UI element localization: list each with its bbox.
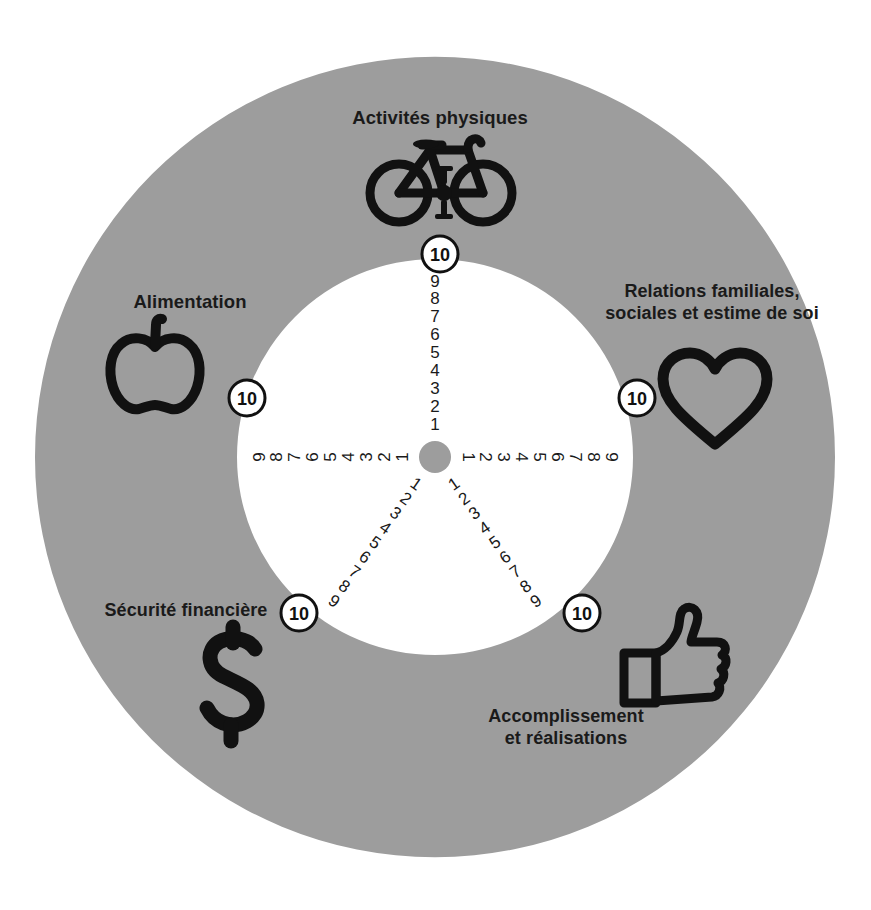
scale-tick-alimentation-2: 2 — [375, 452, 394, 461]
spoke-label-securite-financiere: Sécurité financière — [66, 600, 306, 622]
scale-tick-activites-physiques-2: 2 — [430, 397, 439, 416]
scale-tick-activites-physiques-9: 9 — [430, 272, 439, 291]
wheel-of-life-diagram: 1234567891234567891234567891234567891234… — [0, 0, 871, 910]
scale-tick-accomplissement-9: 9 — [527, 591, 546, 612]
scale-tick-activites-physiques-7: 7 — [430, 307, 439, 326]
scale-tick-relations-familiales-7: 7 — [566, 452, 585, 461]
spoke-label-activites-physiques: Activités physiques — [240, 107, 640, 130]
scale-tick-activites-physiques-1: 1 — [430, 415, 439, 434]
spoke-label-accomplissement: Accomplissement et réalisations — [446, 706, 686, 750]
scale-tick-securite-financiere-9: 9 — [325, 591, 344, 612]
scale-tick-relations-familiales-5: 5 — [530, 452, 549, 461]
scale-tick-activites-physiques-5: 5 — [430, 343, 439, 362]
scale-tick-relations-familiales-6: 6 — [548, 452, 567, 461]
scale-badge-label-activites-physiques: 10 — [430, 245, 450, 265]
scale-tick-relations-familiales-4: 4 — [512, 452, 531, 461]
spoke-label-relations-familiales: Relations familiales, sociales et estime… — [592, 281, 832, 325]
spoke-label-alimentation: Alimentation — [90, 291, 290, 314]
scale-tick-alimentation-3: 3 — [357, 452, 376, 461]
scale-tick-activites-physiques-3: 3 — [430, 379, 439, 398]
scale-tick-activites-physiques-8: 8 — [430, 289, 439, 308]
scale-badge-label-relations-familiales: 10 — [627, 389, 647, 409]
scale-tick-relations-familiales-8: 8 — [584, 452, 603, 461]
scale-tick-relations-familiales-3: 3 — [494, 452, 513, 461]
scale-badge-label-alimentation: 10 — [237, 389, 257, 409]
scale-tick-alimentation-4: 4 — [339, 452, 358, 461]
scale-tick-alimentation-5: 5 — [321, 452, 340, 461]
scale-tick-alimentation-6: 6 — [303, 452, 322, 461]
scale-tick-alimentation-8: 8 — [267, 452, 286, 461]
scale-tick-activites-physiques-4: 4 — [430, 361, 439, 380]
scale-tick-activites-physiques-6: 6 — [430, 325, 439, 344]
wheel-svg: 1234567891234567891234567891234567891234… — [0, 0, 871, 910]
scale-tick-alimentation-1: 1 — [393, 452, 412, 461]
scale-tick-alimentation-7: 7 — [285, 452, 304, 461]
scale-tick-relations-familiales-1: 1 — [459, 452, 478, 461]
scale-tick-relations-familiales-9: 9 — [602, 452, 621, 461]
scale-badge-label-accomplissement: 10 — [572, 604, 592, 624]
scale-tick-relations-familiales-2: 2 — [476, 452, 495, 461]
scale-tick-alimentation-9: 9 — [250, 452, 269, 461]
center-hub — [419, 441, 451, 473]
